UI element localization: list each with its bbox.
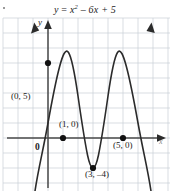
label-x-intercept-1: (1, 0) <box>59 120 79 129</box>
label-y-intercept: (0, 5) <box>11 92 31 101</box>
label-x-axis: x <box>159 138 163 146</box>
chart-title: y = x2 – 6x + 5 <box>0 4 170 15</box>
title-lhs: y <box>54 4 59 15</box>
title-equals: = <box>61 4 67 15</box>
label-x-intercept-2: (5, 0) <box>113 141 133 150</box>
title-exponent: 2 <box>75 3 78 10</box>
label-origin: 0 <box>35 143 40 153</box>
label-y-axis: y <box>38 18 42 27</box>
title-rest: – 6x + 5 <box>81 4 116 15</box>
point-y-intercept <box>45 60 51 66</box>
label-vertex: (3, –4) <box>85 170 109 179</box>
point-x-intercept-1 <box>60 135 66 141</box>
